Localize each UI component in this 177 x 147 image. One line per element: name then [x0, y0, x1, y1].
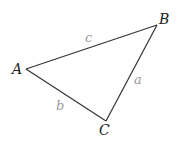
side-label-c: c — [85, 30, 93, 45]
triangle-svg: A B C a b c — [0, 0, 177, 147]
side-b-line — [26, 69, 106, 121]
vertex-label-c: C — [99, 122, 110, 138]
vertex-label-b: B — [158, 11, 169, 27]
side-label-b: b — [56, 98, 64, 113]
side-label-a: a — [134, 72, 142, 87]
triangle-diagram: A B C a b c — [0, 0, 177, 147]
vertex-label-a: A — [10, 61, 22, 77]
